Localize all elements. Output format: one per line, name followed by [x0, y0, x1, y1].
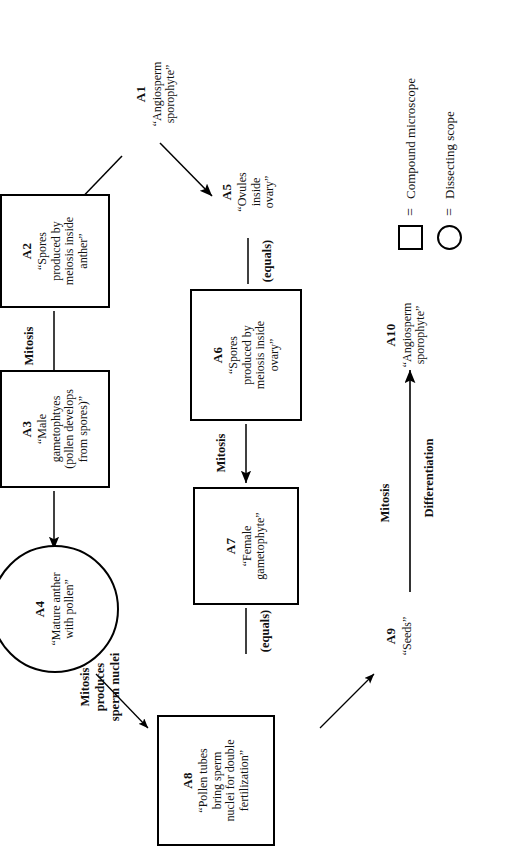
legend-label-dissecting: Dissecting scope	[442, 111, 458, 199]
edge-a8-to-a9	[320, 674, 374, 728]
node-a9-label: A9	[384, 628, 399, 644]
node-a5-text: “Ovules inside ovary”	[236, 172, 276, 211]
node-a2-text: “Spores produced by meiosis inside anthe…	[36, 217, 90, 285]
edge-label-a6-to-a7: Mitosis	[214, 420, 229, 486]
node-a3[interactable]: A3 “Male gametophtyes (pollen develops f…	[0, 370, 110, 488]
node-a1-label: A1	[134, 86, 149, 102]
equals-label-a7-a8: (equals)	[258, 591, 273, 671]
node-a6-text: “Spores produced by meiosis inside ovary…	[227, 321, 281, 389]
node-a8-label: A8	[181, 772, 196, 788]
node-a8-text: “Pollen tubes bring sperm nuclei for dou…	[197, 740, 251, 822]
node-a10-label: A10	[384, 324, 399, 347]
legend-label-compound: Compound microscope	[403, 78, 419, 199]
node-a9-text: “Seeds”	[401, 617, 414, 656]
legend: = Compound microscope = Dissecting scope	[398, 10, 476, 250]
legend-row-compound: = Compound microscope	[398, 10, 423, 250]
node-a7-label: A7	[224, 538, 239, 554]
node-a7-text: “Female gametophyte”	[241, 512, 268, 579]
legend-row-dissecting: = Dissecting scope	[437, 10, 462, 250]
node-a3-text: “Male gametophtyes (pollen develops from…	[36, 389, 90, 469]
node-a8[interactable]: A8 “Pollen tubes bring sperm nuclei for …	[157, 715, 275, 846]
node-a6-label: A6	[211, 347, 226, 363]
edge-label-a9-to-a10-differentiation: Differentiation	[422, 410, 437, 546]
node-a2[interactable]: A2 “Spores produced by meiosis inside an…	[0, 194, 110, 308]
node-a9[interactable]: A9 “Seeds”	[378, 588, 420, 684]
edge-label-a4-to-a8: Mitosis produces sperm nuclei	[78, 624, 122, 750]
node-a4-text: “Mature anther with pollen”	[50, 573, 77, 646]
diagram-canvas: A1 “Angiosperm sporophyte” A2 “Spores pr…	[0, 0, 526, 846]
square-shape-icon	[398, 225, 423, 250]
circle-shape-icon	[437, 225, 462, 250]
legend-equals-sign-1: =	[403, 199, 419, 225]
node-a1-text: “Angiosperm sporophyte”	[151, 62, 178, 127]
node-a10-text: “Angiosperm sporophyte”	[401, 303, 428, 368]
node-a10[interactable]: A10 “Angiosperm sporophyte”	[376, 270, 436, 400]
node-a7[interactable]: A7 “Female gametophyte”	[193, 487, 299, 605]
legend-equals-sign-2: =	[442, 199, 458, 225]
edge-label-a9-to-a10-mitosis: Mitosis	[378, 458, 393, 548]
node-a3-label: A3	[20, 421, 35, 437]
edge-label-a2-to-a3: Mitosis	[22, 308, 37, 384]
node-a2-label: A2	[20, 243, 35, 259]
node-a5-label: A5	[220, 184, 235, 200]
equals-label-a5-a6: (equals)	[260, 221, 275, 301]
node-a6[interactable]: A6 “Spores produced by meiosis inside ov…	[190, 289, 302, 421]
node-a4-label: A4	[33, 601, 48, 617]
node-a1[interactable]: A1 “Angiosperm sporophyte”	[126, 28, 186, 160]
